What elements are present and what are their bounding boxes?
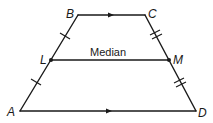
- label-l: L: [40, 53, 47, 67]
- double-tick-md-icon: [174, 78, 186, 87]
- single-tick-bl-icon: [60, 33, 70, 39]
- label-c: C: [148, 7, 157, 21]
- side-cd: [145, 15, 196, 111]
- label-a: A: [6, 105, 15, 119]
- side-ab: [20, 15, 78, 111]
- label-d: D: [198, 106, 207, 120]
- trapezoid-diagram: A B C D L M Median: [0, 0, 213, 123]
- label-m: M: [173, 53, 183, 67]
- median-label: Median: [90, 46, 126, 58]
- point-m-icon: [167, 58, 171, 62]
- parallel-arrow-bc-icon: [108, 13, 114, 18]
- label-b: B: [66, 7, 74, 21]
- parallel-arrow-ad-icon: [106, 109, 112, 114]
- point-l-icon: [49, 58, 53, 62]
